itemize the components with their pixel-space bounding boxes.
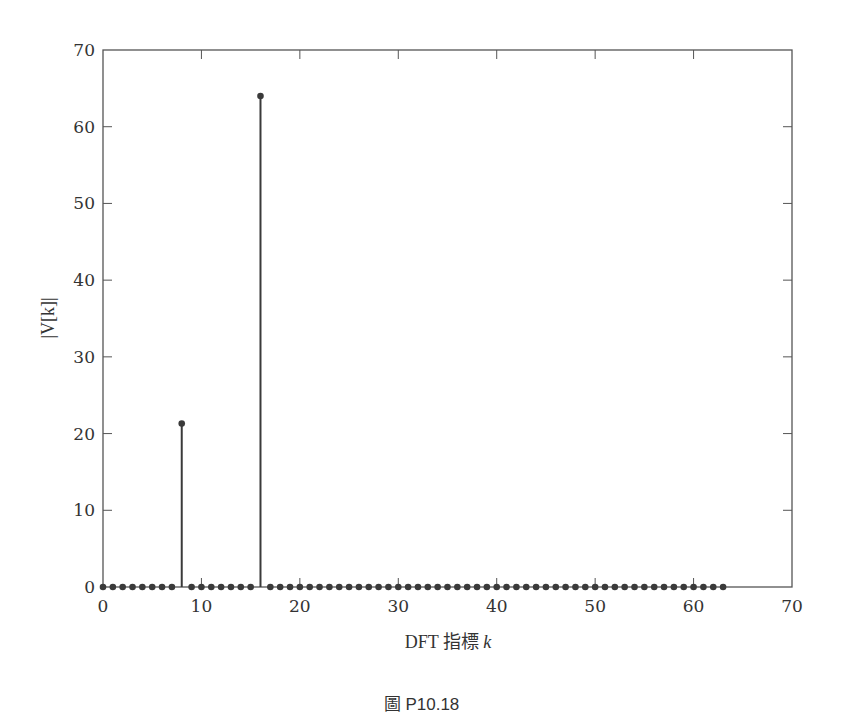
- y-axis-label: |V[k]|: [38, 297, 58, 338]
- stem-marker: [710, 584, 717, 591]
- y-tick-label: 60: [73, 117, 95, 137]
- stem-marker: [552, 584, 559, 591]
- stem-marker: [110, 584, 117, 591]
- stem-plot: 010203040506070010203040506070 |V[k]| DF…: [0, 0, 843, 728]
- stem-marker: [474, 584, 481, 591]
- stem-marker: [523, 584, 530, 591]
- stem-marker: [513, 584, 520, 591]
- y-tick-label: 0: [84, 577, 95, 597]
- stem-marker: [602, 584, 609, 591]
- stem-marker: [277, 584, 284, 591]
- x-axis-label-var: k: [483, 632, 492, 652]
- stem-marker: [228, 584, 235, 591]
- stem-marker: [100, 584, 107, 591]
- x-tick-label: 10: [191, 596, 213, 616]
- stem-marker: [484, 584, 491, 591]
- stem-marker: [592, 584, 599, 591]
- stem-marker: [287, 584, 294, 591]
- stem-marker: [661, 584, 668, 591]
- axes-frame: [103, 50, 792, 587]
- stem-marker: [690, 584, 697, 591]
- stem-marker: [159, 584, 166, 591]
- stem-marker: [297, 584, 304, 591]
- stem-marker: [582, 584, 589, 591]
- x-axis-label-text: DFT 指標: [405, 632, 484, 652]
- x-axis-label: DFT 指標 k: [405, 632, 493, 652]
- stem-marker: [415, 584, 422, 591]
- stem-marker: [336, 584, 343, 591]
- y-tick-label: 40: [73, 270, 95, 290]
- stem-marker: [326, 584, 333, 591]
- stem-marker: [612, 584, 619, 591]
- stem-marker: [641, 584, 648, 591]
- stem-marker: [425, 584, 432, 591]
- stem-marker: [444, 584, 451, 591]
- stem-marker: [365, 584, 372, 591]
- figure-caption: 圖 P10.18: [0, 690, 843, 715]
- stem-marker: [169, 584, 176, 591]
- stem-marker: [208, 584, 215, 591]
- stem-marker: [720, 584, 727, 591]
- x-tick-label: 70: [781, 596, 803, 616]
- stem-marker: [454, 584, 461, 591]
- stem-marker: [247, 584, 254, 591]
- stem-marker: [700, 584, 707, 591]
- stem-marker: [119, 584, 126, 591]
- stem-marker: [651, 584, 658, 591]
- stem-marker: [257, 93, 264, 100]
- y-tick-label: 50: [73, 193, 95, 213]
- x-tick-label: 0: [98, 596, 109, 616]
- y-tick-label: 10: [73, 500, 95, 520]
- stem-marker: [395, 584, 402, 591]
- plot-border: [103, 50, 792, 587]
- stem-marker: [198, 584, 205, 591]
- stem-marker: [178, 420, 185, 427]
- stem-marker: [493, 584, 500, 591]
- stem-marker: [316, 584, 323, 591]
- stem-marker: [149, 584, 156, 591]
- stem-marker: [621, 584, 628, 591]
- x-tick-label: 60: [683, 596, 705, 616]
- axis-ticks: 010203040506070010203040506070: [73, 40, 802, 616]
- y-tick-label: 70: [73, 40, 95, 60]
- stem-marker: [346, 584, 353, 591]
- y-tick-label: 30: [73, 347, 95, 367]
- x-tick-label: 20: [289, 596, 311, 616]
- stem-marker: [306, 584, 313, 591]
- stem-marker: [267, 584, 274, 591]
- stem-marker: [671, 584, 678, 591]
- stem-marker: [238, 584, 245, 591]
- stem-marker: [562, 584, 569, 591]
- stem-marker: [503, 584, 510, 591]
- stem-marker: [533, 584, 540, 591]
- stem-marker: [218, 584, 225, 591]
- stem-marker: [572, 584, 579, 591]
- data-stems: [100, 93, 727, 591]
- stem-marker: [188, 584, 195, 591]
- stem-marker: [129, 584, 136, 591]
- stem-marker: [139, 584, 146, 591]
- stem-marker: [543, 584, 550, 591]
- stem-marker: [405, 584, 412, 591]
- x-tick-label: 30: [387, 596, 409, 616]
- x-tick-label: 50: [584, 596, 606, 616]
- stem-marker: [434, 584, 441, 591]
- stem-marker: [464, 584, 471, 591]
- stem-marker: [375, 584, 382, 591]
- stem-marker: [356, 584, 363, 591]
- stem-marker: [385, 584, 392, 591]
- x-tick-label: 40: [486, 596, 508, 616]
- stem-marker: [631, 584, 638, 591]
- stem-marker: [680, 584, 687, 591]
- y-tick-label: 20: [73, 424, 95, 444]
